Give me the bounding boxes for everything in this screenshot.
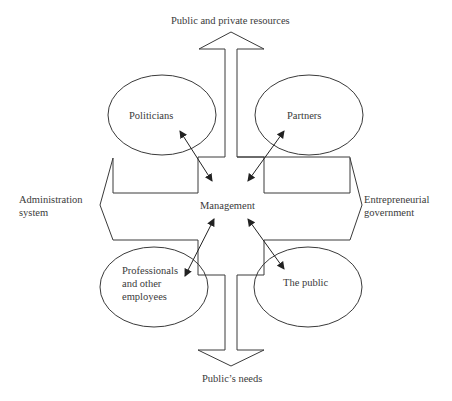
label-right-arrow: Entrepreneurial government [364, 193, 429, 219]
label-left-line-2: system [19, 206, 83, 219]
relation-partners [248, 131, 284, 181]
label-left-line-1: Administration [19, 193, 83, 206]
label-the-public: The public [283, 276, 328, 289]
label-professionals: Professionals and other employees [122, 264, 178, 303]
label-professionals-line-3: employees [122, 290, 178, 303]
label-right-line-1: Entrepreneurial [364, 193, 429, 206]
label-professionals-line-2: and other [122, 277, 178, 290]
relation-politicians [180, 131, 212, 181]
label-down-arrow: Public’s needs [202, 372, 262, 385]
label-partners: Partners [287, 109, 321, 122]
label-up-arrow: Public and private resources [171, 14, 290, 27]
label-left-arrow: Administration system [19, 193, 83, 219]
label-management: Management [200, 199, 255, 212]
label-politicians: Politicians [129, 109, 173, 122]
label-right-line-2: government [364, 206, 429, 219]
label-professionals-line-1: Professionals [122, 264, 178, 277]
relation-professionals [185, 219, 214, 276]
